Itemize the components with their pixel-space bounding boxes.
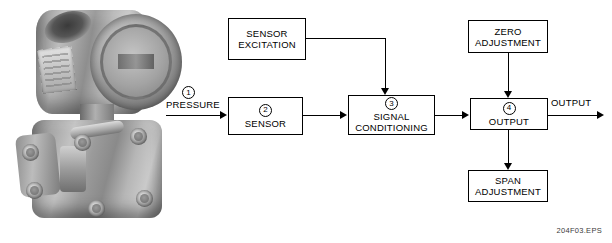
sensor-excitation-line2: EXCITATION	[238, 39, 296, 50]
valve-block	[60, 146, 86, 192]
flange-bolt	[136, 190, 153, 207]
signal-conditioning-line2: CONDITIONING	[355, 122, 428, 133]
output-to-span-arrowhead	[504, 163, 512, 170]
zero-to-output-line	[508, 53, 509, 91]
figure-reference: 204F03.EPS	[556, 226, 602, 235]
nameplate	[37, 46, 76, 94]
output-exit-label: OUTPUT	[551, 97, 591, 108]
pressure-input-arrowhead	[220, 111, 227, 119]
zero-to-output-arrowhead	[504, 91, 512, 98]
box-signal-conditioning: 3 SIGNAL CONDITIONING	[348, 95, 435, 135]
box-output: 4 OUTPUT	[470, 98, 548, 130]
callout-3: 3	[385, 97, 398, 110]
excitation-vertical-line	[385, 38, 386, 88]
zero-adjustment-line2: ADJUSTMENT	[475, 37, 541, 48]
signal-to-output-arrowhead	[462, 111, 469, 119]
sensor-excitation-line1: SENSOR	[246, 28, 287, 39]
box-zero-adjustment: ZERO ADJUSTMENT	[468, 20, 548, 53]
signal-to-output-line	[435, 115, 463, 116]
pressure-transmitter-photo	[18, 4, 170, 226]
flange-bolt	[88, 200, 105, 217]
signal-conditioning-line1: SIGNAL	[373, 111, 409, 122]
excitation-arrowhead	[381, 88, 389, 95]
sensor-line1: SENSOR	[245, 118, 286, 129]
sensor-to-signal-line	[303, 115, 341, 116]
callout-2: 2	[259, 104, 272, 117]
output-exit-arrowhead	[597, 111, 604, 119]
flange-bolt	[22, 144, 39, 161]
box-sensor: 2 SENSOR	[228, 97, 303, 135]
output-line1: OUTPUT	[489, 116, 529, 127]
flange-bolt	[26, 182, 43, 199]
figure-canvas: 1 PRESSURE SENSOR EXCITATION 2 SENSOR 3 …	[0, 0, 612, 243]
callout-1: 1	[182, 86, 195, 99]
sensor-to-signal-arrowhead	[340, 111, 347, 119]
callout-4: 4	[503, 102, 516, 115]
excitation-horizontal-line	[306, 38, 386, 39]
zero-adjustment-line1: ZERO	[494, 26, 521, 37]
box-sensor-excitation: SENSOR EXCITATION	[228, 18, 306, 60]
output-exit-line	[548, 115, 598, 116]
end-cap-marking	[118, 54, 155, 69]
box-span-adjustment: SPAN ADJUSTMENT	[468, 170, 548, 202]
pressure-input-line	[166, 115, 221, 116]
pressure-input-label: PRESSURE	[166, 99, 220, 110]
span-adjustment-line1: SPAN	[495, 175, 521, 186]
output-to-span-line	[508, 130, 509, 163]
end-cap-ring	[100, 24, 172, 100]
span-adjustment-line2: ADJUSTMENT	[475, 186, 541, 197]
flange-bolt	[130, 128, 147, 145]
flange-bolt	[74, 134, 91, 151]
housing-end-cap	[90, 14, 182, 110]
